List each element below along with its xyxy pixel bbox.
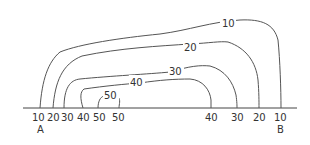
baseline-label: 50 <box>93 112 106 123</box>
baseline-label: 30 <box>231 112 244 123</box>
baseline-label: 20 <box>47 112 60 123</box>
contour-label-50: 50 <box>104 90 117 101</box>
baseline-label: 20 <box>253 112 266 123</box>
contour-10 <box>40 20 281 108</box>
contour-label-30: 30 <box>169 66 182 77</box>
baseline-label: 10 <box>32 112 45 123</box>
baseline-label: 30 <box>61 112 74 123</box>
contour-diagram: 10 20 30 40 50 10 20 30 40 50 50 40 30 2… <box>0 0 310 145</box>
contour-label-20: 20 <box>184 42 197 53</box>
baseline-label: 50 <box>112 112 125 123</box>
point-a-label: A <box>37 124 44 135</box>
contour-40 <box>81 79 211 108</box>
baseline-label: 40 <box>205 112 218 123</box>
contour-label-10: 10 <box>222 18 235 29</box>
baseline-label: 10 <box>274 112 287 123</box>
point-b-label: B <box>277 124 284 135</box>
baseline-label: 40 <box>77 112 90 123</box>
contour-label-40: 40 <box>130 77 143 88</box>
contour-20 <box>53 42 259 108</box>
